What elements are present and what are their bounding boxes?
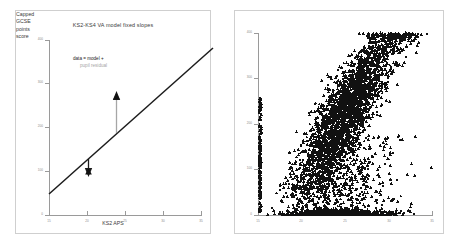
scatter-plot-markers bbox=[235, 11, 445, 235]
left-plot-area: KS2-KS4 VA model fixed slopes 400 300 20… bbox=[16, 11, 210, 233]
regression-line bbox=[49, 48, 213, 194]
right-plot-area: 400 300 200 100 0 15 20 25 30 35 bbox=[235, 11, 443, 233]
left-chart-panel: KS2-KS4 VA model fixed slopes 400 300 20… bbox=[15, 10, 211, 234]
left-plot-graphics bbox=[16, 11, 212, 235]
right-chart-panel: 400 300 200 100 0 15 20 25 30 35 bbox=[234, 10, 444, 234]
data-point-above-line-marker bbox=[113, 93, 120, 100]
